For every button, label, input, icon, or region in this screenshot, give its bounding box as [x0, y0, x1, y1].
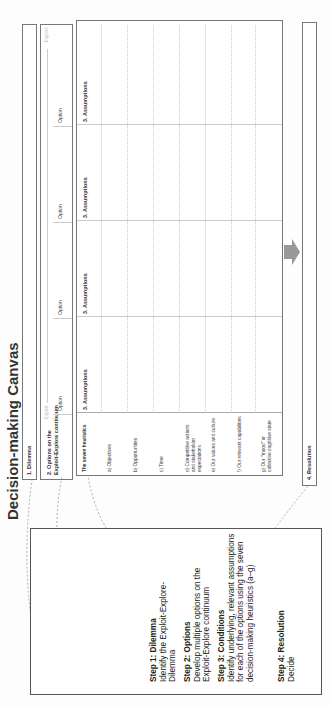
row-divider	[127, 25, 128, 413]
step-4: Step 4: Resolution Decide	[277, 610, 296, 682]
heuristic-item: e) Our values and culture	[209, 413, 219, 475]
steps-box: Step 1: Dilemma Identify the Exploit-Exp…	[30, 528, 322, 695]
option-cell: Option	[53, 27, 72, 127]
resolution-box: 4. Resolution	[302, 22, 317, 486]
decision-canvas-page: Decision-making Canvas 1. Dilemma 2. Opt…	[0, 0, 330, 708]
dilemma-box: 1. Dilemma	[22, 24, 37, 480]
row-divider	[205, 25, 206, 413]
dilemma-label: 1. Dilemma	[26, 446, 32, 475]
row-divider	[231, 25, 232, 413]
heuristic-item: b) Opportunities	[131, 413, 141, 475]
explore-label: Explore	[44, 27, 49, 42]
heuristic-item: g) Our "mood" or collective cognitive st…	[259, 413, 275, 475]
axis-arrow-icon	[47, 49, 48, 403]
option-cell: Option	[53, 127, 72, 223]
exploit-label: Exploit	[44, 405, 49, 419]
heuristic-item: f) Our relevant capabilities	[235, 413, 245, 475]
row-divider	[101, 25, 102, 413]
step-1: Step 1: Dilemma Identify the Exploit-Exp…	[149, 572, 178, 682]
resolution-label: 4. Resolution	[306, 445, 312, 480]
row-divider	[153, 25, 154, 413]
row-divider	[255, 25, 256, 413]
page-title: Decision-making Canvas	[4, 342, 21, 520]
heuristics-column: The seven heuristics a) Objectives b) Op…	[77, 412, 282, 475]
heuristics-header: The seven heuristics	[80, 413, 90, 475]
heuristic-item: c) Time	[157, 413, 167, 475]
heuristic-item: a) Objectives	[105, 413, 115, 475]
option-cell: Option	[53, 223, 72, 319]
option-cell: Option	[53, 319, 72, 415]
exploit-explore-axis: Exploit Explore	[44, 27, 50, 419]
heuristic-item: d) Competitive actions and stakeholder e…	[183, 413, 205, 475]
step-3: Step 3: Conditions Identify underlying, …	[217, 532, 255, 682]
options-box: 2. Options on the Exploit-Explore contin…	[40, 24, 73, 480]
row-divider	[179, 25, 180, 413]
assumptions-table: The seven heuristics a) Objectives b) Op…	[76, 20, 283, 476]
down-arrow-icon	[284, 239, 300, 265]
step-2: Step 2: Options Develop multiple options…	[183, 552, 212, 682]
